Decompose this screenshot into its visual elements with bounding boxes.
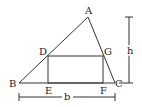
label-e: E <box>45 85 52 96</box>
label-g: G <box>104 46 112 57</box>
label-b: B <box>9 78 16 89</box>
triangle-rectangle-diagram: A B C D E F G h b <box>0 0 142 107</box>
height-label: h <box>127 45 134 56</box>
label-d: D <box>39 46 47 57</box>
label-c: C <box>115 78 123 89</box>
label-a: A <box>84 5 93 16</box>
triangle-abc <box>19 17 115 83</box>
rectangle-defg <box>48 56 103 83</box>
label-f: F <box>100 85 107 96</box>
base-label: b <box>64 91 70 102</box>
